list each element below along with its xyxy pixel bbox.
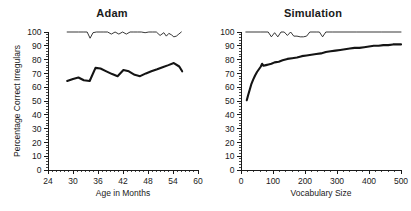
x-tick-label: 48 [143,176,153,186]
data-series-irregulars [247,44,401,100]
y-tick-label: 80 [32,55,42,65]
y-tick-label: 30 [32,124,42,134]
x-tick-label: 0 [239,176,244,186]
y-tick-label: 80 [225,55,235,65]
y-tick-label: 100 [27,27,41,37]
y-tick-label: 100 [220,27,234,37]
y-tick-label: 20 [225,138,235,148]
y-tick-label: 10 [225,151,235,161]
y-tick-label: 50 [225,96,235,106]
data-series-irregulars [67,63,182,81]
y-tick-label: 0 [230,165,235,175]
plot-area-simulation: 01020304050607080901000100200300400500Vo… [205,0,411,211]
x-axis-title: Age in Months [96,188,150,198]
data-series-regulars [246,32,401,37]
chart-panel-simulation: Simulation 01020304050607080901000100200… [205,0,411,211]
data-series-regulars [67,32,181,38]
plot-area-adam: 010203040506070809010024303642485460Age … [0,0,206,211]
y-tick-label: 90 [32,41,42,51]
y-tick-label: 60 [225,82,235,92]
y-tick-label: 70 [225,69,235,79]
y-tick-label: 40 [32,110,42,120]
x-tick-label: 36 [93,176,103,186]
x-tick-label: 400 [362,176,376,186]
y-tick-label: 90 [225,41,235,51]
x-tick-label: 30 [68,176,78,186]
y-tick-label: 20 [32,138,42,148]
chart-panel-adam: Adam 01020304050607080901002430364248546… [0,0,206,211]
x-tick-label: 500 [394,176,408,186]
y-tick-label: 10 [32,151,42,161]
x-tick-label: 24 [43,176,53,186]
x-tick-label: 42 [118,176,128,186]
y-axis-title: Percentage Correct Irregulars [12,45,22,157]
x-tick-label: 100 [266,176,280,186]
y-tick-label: 0 [37,165,42,175]
y-tick-label: 40 [225,110,235,120]
y-tick-label: 60 [32,82,42,92]
y-tick-label: 30 [225,124,235,134]
y-tick-label: 70 [32,69,42,79]
x-axis-title: Vocabulary Size [291,188,352,198]
figure-container: Adam 01020304050607080901002430364248546… [0,0,411,211]
x-tick-label: 60 [193,176,203,186]
x-tick-label: 200 [298,176,312,186]
y-tick-label: 50 [32,96,42,106]
x-tick-label: 54 [168,176,178,186]
x-tick-label: 300 [330,176,344,186]
